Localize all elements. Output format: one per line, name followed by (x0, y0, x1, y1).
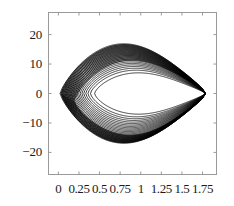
y-tick-label-0: 20 (8, 28, 42, 41)
y-tick-label-3: −10 (8, 116, 42, 129)
x-tick-label-7: 1.75 (183, 182, 223, 195)
y-tick-label-4: −20 (8, 145, 42, 158)
y-tick-label-1: 10 (8, 57, 42, 70)
y-tick-label-2: 0 (8, 87, 42, 100)
phase-portrait-figure: 20100−10−20 00.250.50.7511.251.51.75 (0, 0, 234, 206)
